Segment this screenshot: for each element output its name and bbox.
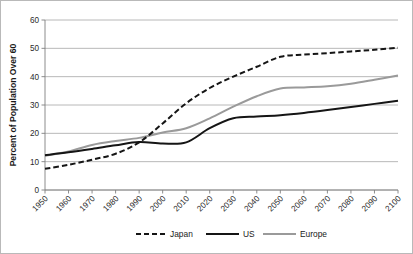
axes-group bbox=[42, 20, 399, 194]
legend-label-japan: Japan bbox=[170, 229, 193, 239]
gridlines-group bbox=[45, 20, 398, 190]
x-tick-label-2070: 2070 bbox=[313, 194, 333, 214]
x-tick-label-2090: 2090 bbox=[360, 194, 380, 214]
chart-figure: 0102030405060 19501960197019801990200020… bbox=[0, 0, 413, 254]
x-tick-label-2000: 2000 bbox=[148, 194, 168, 214]
y-tick-label-50: 50 bbox=[30, 44, 40, 53]
x-tick-label-1970: 1970 bbox=[78, 194, 98, 214]
x-tick-label-2100: 2100 bbox=[384, 194, 404, 214]
legend-label-us: US bbox=[243, 229, 255, 239]
x-tick-label-2010: 2010 bbox=[172, 194, 192, 214]
x-tick-label-1950: 1950 bbox=[31, 194, 51, 214]
x-tick-label-2050: 2050 bbox=[266, 194, 286, 214]
x-tick-label-1980: 1980 bbox=[101, 194, 121, 214]
x-tick-label-2080: 2080 bbox=[337, 194, 357, 214]
x-tick-label-2030: 2030 bbox=[219, 194, 239, 214]
x-tick-label-1960: 1960 bbox=[54, 194, 74, 214]
y-axis-tick-labels: 0102030405060 bbox=[30, 16, 40, 195]
y-tick-label-10: 10 bbox=[30, 158, 40, 167]
chart-legend: JapanUSEurope bbox=[136, 229, 327, 239]
series-line-europe bbox=[45, 76, 398, 156]
y-tick-label-20: 20 bbox=[30, 129, 40, 138]
x-tick-label-2060: 2060 bbox=[290, 194, 310, 214]
series-line-us bbox=[45, 101, 398, 155]
y-tick-label-0: 0 bbox=[34, 186, 39, 195]
y-axis-title: Percent of Population Over 60 bbox=[8, 43, 18, 166]
data-series-group bbox=[45, 48, 398, 169]
y-tick-label-30: 30 bbox=[30, 101, 40, 110]
line-chart: 0102030405060 19501960197019801990200020… bbox=[1, 1, 413, 254]
x-tick-label-2020: 2020 bbox=[195, 194, 215, 214]
y-tick-label-60: 60 bbox=[30, 16, 40, 25]
x-tick-label-1990: 1990 bbox=[125, 194, 145, 214]
legend-label-europe: Europe bbox=[300, 229, 327, 239]
y-tick-label-40: 40 bbox=[30, 73, 40, 82]
x-axis-tick-labels: 1950196019701980199020002010202020302040… bbox=[31, 194, 404, 214]
x-tick-label-2040: 2040 bbox=[242, 194, 262, 214]
